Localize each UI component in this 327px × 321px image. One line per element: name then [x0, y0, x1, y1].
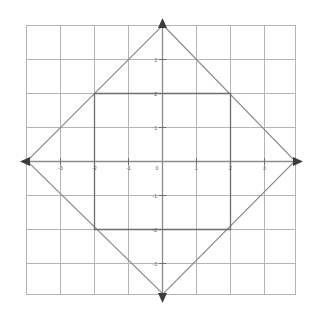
coordinate-plane-figure: -3 -2 -1 0 1 2 3 3 2 1 -1 -2 -3: [0, 0, 327, 321]
y-tick-label--2: -2: [153, 227, 158, 233]
figure-background: [0, 0, 327, 321]
y-tick-label-2: 2: [154, 91, 157, 97]
y-tick-label-1: 1: [154, 125, 157, 131]
x-tick-label--3: -3: [58, 165, 63, 171]
y-tick-label--1: -1: [153, 193, 158, 199]
x-tick-label--2: -2: [92, 165, 97, 171]
x-tick-label-2: 2: [229, 165, 232, 171]
x-tick-label--1: -1: [126, 165, 131, 171]
x-tick-label-1: 1: [195, 165, 198, 171]
y-tick-label-3: 3: [154, 57, 157, 63]
y-tick-label--3: -3: [153, 261, 158, 267]
x-tick-label-3: 3: [263, 165, 266, 171]
graph-canvas: -3 -2 -1 0 1 2 3 3 2 1 -1 -2 -3: [0, 0, 327, 321]
x-tick-label-0: 0: [156, 165, 159, 171]
